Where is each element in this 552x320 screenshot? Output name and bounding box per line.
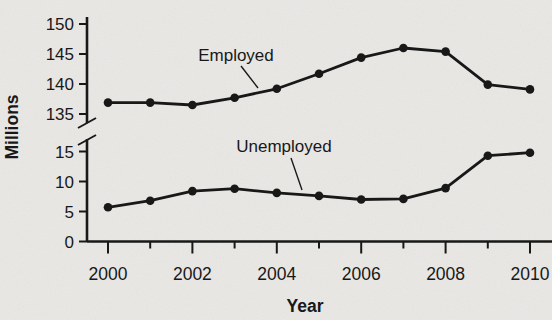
unemployed-series-label: Unemployed [236, 137, 331, 156]
employed-point-2000 [104, 98, 113, 107]
y-tick-label: 5 [65, 203, 74, 222]
employed-series-label: Employed [198, 46, 274, 65]
unemployed-point-2009 [484, 151, 493, 160]
employed-point-2001 [146, 98, 155, 107]
unemployed-point-2004 [273, 189, 282, 198]
x-tick-label: 2008 [426, 264, 465, 284]
unemployed-point-2010 [526, 148, 535, 157]
employed-point-2007 [399, 44, 408, 53]
employed-point-2003 [230, 94, 239, 103]
employed-point-2008 [441, 47, 450, 56]
employed-point-2006 [357, 53, 366, 62]
unemployed-point-2007 [399, 195, 408, 204]
unemployed-point-2001 [146, 196, 155, 205]
employed-point-2002 [188, 101, 197, 110]
employed-point-2010 [526, 85, 535, 94]
x-tick-label: 2006 [342, 264, 381, 284]
scanned-page: 1501451401351510502000200220042006200820… [0, 0, 552, 320]
unemployed-point-2006 [357, 195, 366, 204]
employment-line-chart: 1501451401351510502000200220042006200820… [0, 0, 552, 320]
x-tick-label: 2010 [511, 264, 550, 284]
unemployed-point-2002 [188, 187, 197, 196]
y-axis-title: Millions [2, 94, 22, 159]
x-tick-label: 2002 [173, 264, 212, 284]
unemployed-point-2000 [104, 203, 113, 212]
y-tick-label: 140 [46, 75, 74, 94]
chart-canvas: 1501451401351510502000200220042006200820… [0, 0, 552, 320]
x-tick-label: 2004 [257, 264, 296, 284]
y-tick-label: 10 [55, 173, 74, 192]
y-tick-label: 15 [55, 143, 74, 162]
y-tick-label: 0 [65, 233, 74, 252]
x-tick-label: 2000 [89, 264, 128, 284]
employed-point-2005 [315, 70, 324, 79]
y-tick-label: 145 [46, 45, 74, 64]
x-axis-title: Year [287, 296, 324, 316]
y-tick-label: 135 [46, 105, 74, 124]
y-tick-label: 150 [46, 15, 74, 34]
employed-point-2009 [484, 80, 493, 89]
unemployed-point-2003 [230, 184, 239, 193]
unemployed-point-2005 [315, 192, 324, 201]
employed-point-2004 [273, 85, 282, 94]
unemployed-point-2008 [441, 184, 450, 193]
